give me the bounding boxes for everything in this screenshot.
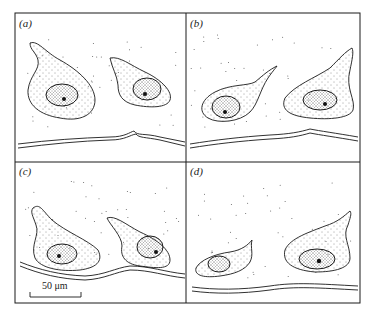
nucleolus [143,92,147,96]
speck [203,37,204,38]
speck [285,201,286,202]
speck [203,41,204,42]
speck [91,185,92,186]
nucleolus [323,102,327,106]
cell-d2 [284,211,350,272]
speck [25,209,26,210]
cell-d1 [196,240,252,277]
speck [247,277,248,278]
speck [99,87,100,88]
speck [175,52,176,53]
speck [171,115,172,116]
speck [63,57,64,58]
substrate-edge [192,288,358,293]
speck [263,70,264,71]
speck [175,65,176,66]
nucleolus [62,97,66,101]
speck [257,45,258,46]
speck [191,68,192,69]
nucleus [137,236,163,258]
speck [291,218,292,219]
speck [47,126,48,127]
speck [93,75,94,76]
speck [71,181,72,182]
speck [101,232,102,233]
speck [231,204,232,205]
speck [330,48,331,49]
cell-b2 [284,48,354,119]
speck [218,38,219,39]
cell-a2 [110,58,170,107]
speck [228,242,229,243]
nucleus [303,90,337,110]
speck [173,125,174,126]
speck [86,196,87,197]
speck [228,62,229,63]
speck [93,43,94,44]
speck [221,63,222,64]
speck [92,56,93,57]
speck [127,191,128,192]
speck [155,193,156,194]
scale-bar-line [30,292,81,297]
speck [83,182,84,183]
cell-body [202,66,277,121]
speck [200,68,201,69]
speck [99,198,100,199]
speck [236,215,237,216]
nucleolus [57,254,61,258]
nucleus [299,249,335,269]
speck [350,240,351,241]
speck [127,42,128,43]
speck [117,209,118,210]
speck [280,119,281,120]
speck [29,235,30,236]
nucleus [208,256,230,272]
panel-a: (a) [18,17,185,148]
speck [338,274,339,275]
nucleus [212,96,240,118]
nucleus [133,78,161,100]
speck [141,47,142,48]
speck [198,215,199,216]
speck [194,49,195,50]
panel-label-b: (b) [190,17,203,30]
speck [159,125,160,126]
nucleolus [317,259,321,263]
speck [280,185,281,186]
speck [287,76,288,77]
nucleus [47,244,77,264]
speck [217,35,218,36]
speck [236,238,237,239]
speck [279,207,280,208]
speck [85,218,86,219]
speck [236,80,237,81]
speck [73,182,74,183]
speck [265,103,266,104]
speck [234,123,235,124]
speck [92,82,93,83]
speck [111,80,112,81]
speck [164,211,165,212]
speck [76,211,77,212]
speck [312,229,313,230]
speck [253,274,254,275]
speck [167,230,168,231]
speck [247,203,248,204]
cell-c1 [32,206,100,270]
speck [332,182,333,183]
speck [253,272,254,273]
speck [244,68,245,69]
panel-label-a: (a) [19,17,32,30]
cell-migration-figure: (a) (b) (c) [0,0,370,316]
speck [282,37,283,38]
speck [211,252,212,253]
speck [166,187,167,188]
panel-d: (d) [190,165,358,293]
speck [263,188,264,189]
speck [178,221,179,222]
speck [91,81,92,82]
speck [267,195,268,196]
speck [77,67,78,68]
cell-a1 [28,43,95,120]
